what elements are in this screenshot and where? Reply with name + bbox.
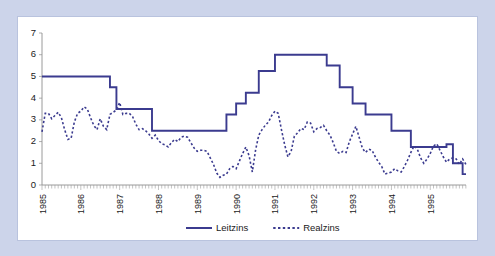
y-tick-label: 7: [31, 27, 36, 38]
x-tick-label: 1990: [232, 194, 242, 214]
x-tick-label: 1985: [38, 194, 48, 214]
x-tick-label: 1993: [348, 194, 358, 214]
x-tick-label: 1991: [270, 194, 280, 214]
x-tick-label: 1992: [309, 194, 319, 214]
x-tick-label: 1994: [387, 194, 397, 214]
data-series-group: [42, 55, 466, 178]
series-realzins: [42, 102, 466, 177]
x-tick-label: 1987: [115, 194, 125, 214]
y-tick-label: 5: [31, 70, 36, 81]
x-tick-label: 1989: [193, 194, 203, 214]
x-tick-label: 1995: [426, 194, 436, 214]
legend-label-leitzins: Leitzins: [216, 222, 248, 233]
y-axis: 01234567: [31, 27, 42, 190]
y-tick-label: 1: [31, 157, 36, 168]
x-tick-label: 1988: [154, 194, 164, 214]
chart-figure: 01234567 1985198619871988198919901991199…: [0, 0, 495, 256]
y-tick-label: 4: [31, 92, 36, 103]
chart-legend: LeitzinsRealzins: [186, 222, 340, 233]
y-tick-label: 0: [31, 179, 36, 190]
y-tick-label: 6: [31, 48, 36, 59]
legend-label-realzins: Realzins: [303, 222, 340, 233]
interest-rate-line-chart: 01234567 1985198619871988198919901991199…: [0, 0, 495, 256]
plot-area-wrapper: 01234567 1985198619871988198919901991199…: [0, 0, 495, 256]
x-tick-label: 1986: [76, 194, 86, 214]
x-axis: 1985198619871988198919901991199219931994…: [38, 185, 467, 214]
y-tick-label: 3: [31, 113, 36, 124]
y-tick-label: 2: [31, 135, 36, 146]
